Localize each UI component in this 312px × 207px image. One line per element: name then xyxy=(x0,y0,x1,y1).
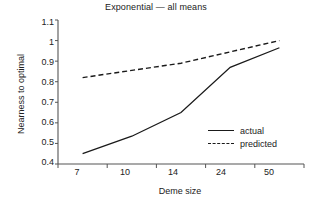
plot-area xyxy=(0,0,312,207)
legend-item-actual: actual xyxy=(208,124,277,137)
legend-label: actual xyxy=(240,126,264,136)
dashed-line-icon xyxy=(208,139,234,148)
legend-item-predicted: predicted xyxy=(208,137,277,150)
chart-legend: actual predicted xyxy=(208,124,277,150)
chart-figure: Exponential — all means Nearness to opti… xyxy=(0,0,312,207)
x-tick-marks xyxy=(58,164,304,168)
legend-label: predicted xyxy=(240,139,277,149)
solid-line-icon xyxy=(208,126,234,135)
